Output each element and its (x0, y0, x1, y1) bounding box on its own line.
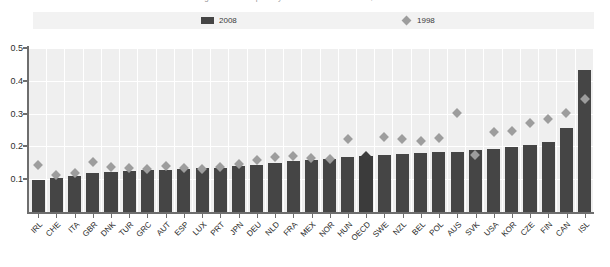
bar-2008 (359, 156, 372, 212)
x-label-slot: USA (484, 218, 502, 267)
x-tick-mark (257, 214, 258, 218)
marker-1998 (33, 160, 43, 170)
x-label-slot: ISL (576, 218, 594, 267)
x-label-slot: CZE (521, 218, 539, 267)
x-tick-label: NOR (317, 220, 336, 239)
x-tick-mark (93, 214, 94, 218)
plot-wrapper: 0.10.20.30.40.5 IRLCHEITAGBRDNKTURGRCAUT… (0, 40, 610, 267)
x-tick-mark (512, 214, 513, 218)
x-tick-mark (530, 214, 531, 218)
bar-2008 (123, 171, 136, 212)
bar-slot (321, 48, 339, 212)
x-tick-label: ITA (66, 220, 81, 235)
x-label-slot: OECD (357, 218, 375, 267)
bar-2008 (141, 170, 154, 212)
x-tick-mark (348, 214, 349, 218)
marker-1998 (398, 134, 408, 144)
bar-slot (266, 48, 284, 212)
x-tick-label: AUT (154, 220, 172, 238)
y-tick-mark (23, 47, 28, 49)
x-tick-mark (384, 214, 385, 218)
y-tick-mark (23, 113, 28, 115)
x-tick-mark (439, 214, 440, 218)
bar-2008 (378, 155, 391, 212)
x-label-slot: HUN (339, 218, 357, 267)
bar-2008 (305, 160, 318, 212)
bar-slot (539, 48, 557, 212)
diamond-swatch-icon (402, 16, 412, 26)
x-label-slot: LUX (193, 218, 211, 267)
bar-slot (339, 48, 357, 212)
x-tick-label: KOR (500, 220, 519, 239)
x-tick-label: DNK (99, 220, 117, 238)
x-tick-label: TUR (118, 220, 136, 238)
x-tick-mark (38, 214, 39, 218)
x-tick-label: FIN (539, 220, 554, 235)
x-label-slot: GRC (138, 218, 156, 267)
bar-slot (248, 48, 266, 212)
y-tick-label: 0.5 (10, 43, 23, 53)
x-label-slot: AUT (157, 218, 175, 267)
x-label-slot: MEX (302, 218, 320, 267)
bar-slot (138, 48, 156, 212)
bar-2008 (196, 168, 209, 212)
x-label-slot: KOR (503, 218, 521, 267)
bar-slot (157, 48, 175, 212)
bar-slot (357, 48, 375, 212)
legend-entry-2008: 2008 (201, 17, 237, 25)
marker-1998 (562, 108, 572, 118)
x-tick-label: DEU (245, 220, 263, 238)
marker-1998 (507, 126, 517, 136)
x-tick-label: ESP (173, 220, 191, 238)
bar-slot (484, 48, 502, 212)
bar-2008 (104, 172, 117, 212)
bar-slot (375, 48, 393, 212)
x-tick-mark (239, 214, 240, 218)
x-label-slot: FIN (539, 218, 557, 267)
bar-slot (193, 48, 211, 212)
x-tick-mark (75, 214, 76, 218)
bar-2008 (32, 180, 45, 212)
plot-area (29, 48, 594, 212)
marker-1998 (252, 155, 262, 165)
bar-slot (284, 48, 302, 212)
bars-container (29, 48, 594, 212)
x-tick-mark (312, 214, 313, 218)
bar-slot (557, 48, 575, 212)
x-axis-line (27, 212, 594, 214)
x-tick-mark (330, 214, 331, 218)
x-tick-mark (166, 214, 167, 218)
bar-2008 (50, 178, 63, 212)
bar-2008 (414, 153, 427, 212)
x-label-slot: DEU (248, 218, 266, 267)
bar-slot (448, 48, 466, 212)
marker-1998 (489, 127, 499, 137)
bar-2008 (159, 170, 172, 212)
x-label-slot: IRL (29, 218, 47, 267)
x-label-slot: NOR (321, 218, 339, 267)
bar-slot (412, 48, 430, 212)
bar-2008 (341, 157, 354, 212)
x-label-slot: JPN (229, 218, 247, 267)
x-tick-label: GBR (81, 220, 100, 239)
x-tick-label: ISL (576, 220, 591, 235)
x-tick-label: LUX (191, 220, 208, 237)
marker-1998 (270, 152, 280, 162)
gridline (29, 48, 594, 49)
x-tick-mark (494, 214, 495, 218)
bar-slot (521, 48, 539, 212)
x-label-slot: ESP (175, 218, 193, 267)
marker-1998 (106, 162, 116, 172)
x-label-slot: CHE (47, 218, 65, 267)
x-tick-mark (476, 214, 477, 218)
x-label-slot: GBR (84, 218, 102, 267)
bar-slot (120, 48, 138, 212)
x-tick-mark (403, 214, 404, 218)
x-tick-label: NLD (264, 220, 282, 238)
bar-slot (229, 48, 247, 212)
bar-2008 (505, 147, 518, 212)
x-label-slot: BEL (412, 218, 430, 267)
gridline (29, 114, 594, 115)
y-tick-mark (23, 145, 28, 147)
y-tick-label: 0.3 (10, 109, 23, 119)
